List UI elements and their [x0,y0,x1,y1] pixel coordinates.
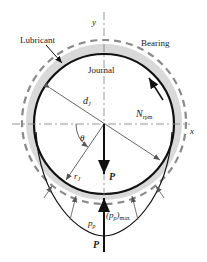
journal-bearing-diagram: Lubricant Bearing Journal y x dJ Nrpm θ … [0,0,207,262]
pressure-max-label: (pp)max [106,210,130,221]
theta-label: θ [80,133,85,143]
lubricant-label: Lubricant [20,35,55,45]
load-label-top: P [109,171,116,182]
load-label-bottom: P [93,239,100,250]
journal-label: Journal [88,65,115,75]
x-axis-label: x [189,126,194,136]
pressure-label: pp [87,218,96,229]
bearing-label: Bearing [141,38,170,48]
y-axis-label: y [91,17,96,27]
